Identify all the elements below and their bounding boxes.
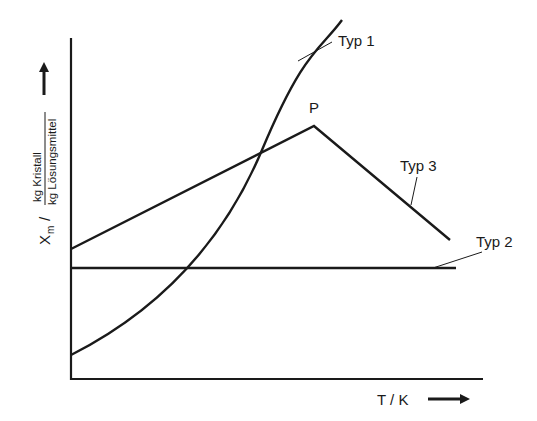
y-numerator: kg Kristall	[31, 152, 43, 202]
label-typ2: Typ 2	[476, 233, 513, 250]
leader-typ1	[298, 42, 332, 61]
y-arrow-icon	[39, 62, 49, 72]
label-peak-p: P	[309, 99, 319, 116]
curve-typ3	[71, 126, 450, 249]
solubility-diagram: Typ 1 P Typ 3 Typ 2 T / K X m / kg Krist…	[0, 0, 537, 421]
x-axis-label: T / K	[377, 391, 408, 408]
y-denominator: kg Lösungsmittel	[46, 119, 58, 205]
y-axis-label: X m / kg Kristall kg Lösungsmittel	[31, 112, 58, 245]
x-arrow-icon	[460, 394, 470, 404]
label-typ3: Typ 3	[400, 157, 437, 174]
curve-typ1	[71, 20, 342, 355]
y-symbol: X	[36, 235, 53, 245]
leader-typ3	[411, 177, 417, 205]
leader-typ2	[433, 252, 482, 268]
y-subscript: m	[45, 226, 56, 234]
label-typ1: Typ 1	[338, 32, 375, 49]
y-slash: /	[36, 216, 53, 221]
